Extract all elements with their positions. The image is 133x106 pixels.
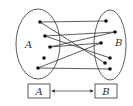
element-dot	[108, 56, 112, 60]
element-dot	[48, 45, 52, 49]
box-a-label: A	[34, 86, 42, 97]
element-dot	[43, 34, 47, 38]
element-dot	[104, 19, 108, 23]
element-dot	[99, 41, 103, 45]
mapping-line	[40, 21, 106, 22]
element-dot	[103, 61, 107, 65]
element-dot	[36, 66, 40, 70]
set-a-label: A	[24, 39, 32, 50]
set-mapping-diagram: A B A B	[0, 0, 133, 106]
element-dot	[108, 67, 112, 71]
set-b-label: B	[114, 37, 122, 48]
mapping-line	[38, 43, 101, 68]
element-dot	[38, 20, 42, 24]
element-dot	[113, 30, 117, 34]
element-dot	[42, 56, 46, 60]
mapping-line	[38, 68, 110, 69]
mapping-line	[45, 32, 115, 36]
mapping-lines	[38, 21, 115, 69]
box-b-label: B	[101, 86, 109, 97]
